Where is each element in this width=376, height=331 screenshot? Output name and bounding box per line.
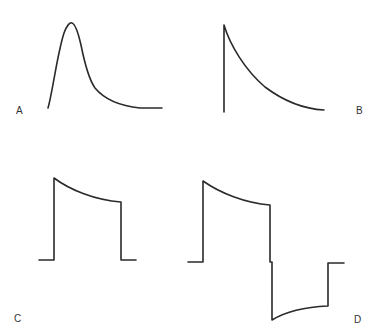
- waveform-b: [224, 25, 324, 112]
- panel-c: C: [14, 178, 136, 324]
- label-b: B: [356, 105, 363, 116]
- panel-d: D: [188, 181, 361, 325]
- waveform-diagram: A B C D: [0, 0, 376, 331]
- waveform-a: [48, 23, 162, 108]
- label-c: C: [14, 313, 21, 324]
- panel-b: B: [224, 25, 363, 116]
- waveform-d: [188, 181, 344, 320]
- waveform-c: [39, 178, 136, 260]
- label-d: D: [354, 314, 361, 325]
- panel-a: A: [16, 23, 162, 116]
- label-a: A: [16, 105, 23, 116]
